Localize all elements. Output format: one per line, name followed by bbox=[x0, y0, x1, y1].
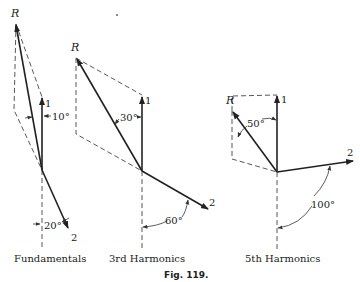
panel-title: 5th Harmonics bbox=[245, 253, 320, 264]
vector-2-label: 2 bbox=[71, 232, 77, 243]
vector-1-label: 1 bbox=[45, 98, 51, 109]
figure-caption: Fig. 119. bbox=[164, 270, 208, 280]
angle-arrow bbox=[115, 119, 119, 124]
angle-label: 60° bbox=[165, 215, 183, 226]
angle-label: 30° bbox=[120, 112, 138, 123]
angle-label: 50° bbox=[247, 118, 265, 129]
vector-2 bbox=[142, 171, 208, 209]
angle-arc bbox=[314, 166, 330, 196]
resultant-label: R bbox=[225, 94, 234, 107]
parallelogram-side-right bbox=[16, 24, 42, 97]
panel-title: 3rd Harmonics bbox=[109, 253, 185, 264]
angle-label: 100° bbox=[311, 199, 335, 210]
resultant-vector bbox=[16, 25, 42, 170]
panel-5th-harmonics: R 1 50° 100° 2 5th Harmonics bbox=[225, 94, 353, 264]
angle-label: 10° bbox=[52, 111, 70, 122]
angle-arc bbox=[143, 221, 167, 227]
vector-2-label: 2 bbox=[209, 197, 215, 208]
parallelogram-side-top bbox=[76, 58, 142, 95]
resultant-label: R bbox=[10, 7, 19, 20]
panel-title: Fundamentals bbox=[14, 253, 86, 264]
vector-2 bbox=[277, 161, 353, 172]
angle-arc bbox=[238, 126, 247, 137]
resultant-label: R bbox=[70, 41, 79, 54]
vector-1-label: 1 bbox=[281, 94, 287, 105]
vector-1-label: 1 bbox=[145, 95, 151, 106]
angle-arrow-left bbox=[25, 117, 32, 118]
angle-label: 20° bbox=[44, 220, 62, 231]
angle-arc bbox=[278, 206, 312, 228]
stray-dot bbox=[116, 14, 118, 16]
vector-2-label: 2 bbox=[347, 147, 353, 158]
panel-3rd-harmonics: R 1 30° 60° 2 3rd Harmonics bbox=[70, 41, 215, 264]
angle-arc bbox=[182, 200, 188, 217]
phasor-diagram: R 1 10° 20° 2 Fundamentals R 1 30° 60° 2… bbox=[0, 0, 360, 282]
parallelogram-side-top bbox=[232, 95, 277, 111]
